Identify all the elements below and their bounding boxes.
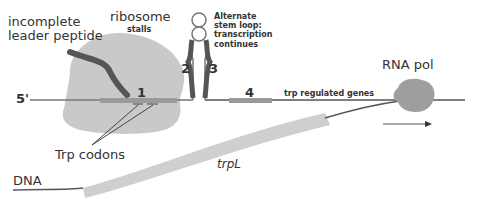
label-line: leader peptide [8, 29, 103, 43]
label-trpL: trpL [217, 158, 241, 171]
label-alternate-stem-loop: Alternate stem loop: transcription conti… [214, 12, 273, 49]
label-region-4: 4 [245, 86, 254, 100]
arrow-head-icon [425, 121, 432, 127]
label-line: incomplete [8, 15, 103, 29]
ribosome-shape [63, 33, 184, 134]
stem-loop-2-3 [188, 13, 210, 100]
trp-attenuation-diagram: incomplete leader peptide ribosome stall… [0, 0, 477, 204]
label-trp-codons: Trp codons [55, 148, 125, 162]
label-line: transcription [214, 30, 273, 39]
label-stalls: stalls [127, 26, 151, 35]
dna-line [13, 188, 83, 190]
label-line: continues [214, 40, 273, 49]
label-incomplete-leader-peptide: incomplete leader peptide [8, 15, 103, 44]
label-region-2: 2 [181, 62, 190, 76]
label-dna: DNA [13, 174, 42, 188]
dna-line-right [325, 101, 400, 118]
label-rna-pol: RNA pol [382, 58, 434, 72]
label-region-1: 1 [137, 86, 146, 100]
label-trp-regulated-genes: trp regulated genes [284, 90, 374, 99]
label-region-3: 3 [209, 62, 218, 76]
label-line: stem loop: [214, 21, 273, 30]
rna-pol-shape [394, 79, 435, 112]
label-five-prime: 5' [16, 92, 29, 106]
label-line: Alternate [214, 12, 273, 21]
label-ribosome: ribosome [110, 10, 171, 24]
